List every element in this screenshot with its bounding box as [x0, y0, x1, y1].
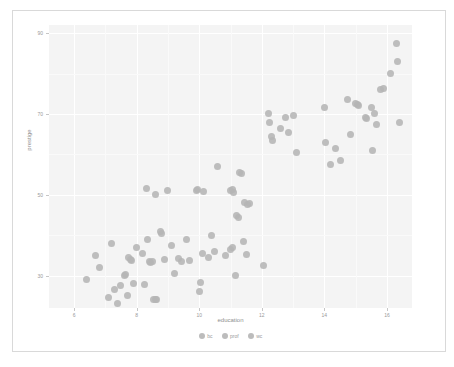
data-point: [141, 281, 148, 288]
data-point: [327, 161, 334, 168]
data-point: [332, 145, 339, 152]
data-point: [161, 256, 168, 263]
y-axis-tick: [46, 276, 49, 277]
x-axis-tick: [74, 308, 75, 311]
data-point: [337, 157, 344, 164]
data-point: [277, 125, 284, 132]
x-axis-tick: [199, 308, 200, 311]
data-point: [387, 70, 394, 77]
legend-label: wc: [256, 333, 262, 339]
data-point: [186, 257, 193, 264]
data-point: [238, 170, 245, 177]
y-axis-label: prestige: [26, 110, 32, 170]
data-point: [143, 185, 150, 192]
data-point: [344, 96, 351, 103]
data-point: [128, 257, 135, 264]
data-point: [347, 131, 354, 138]
data-point: [322, 139, 329, 146]
x-axis-tick: [324, 308, 325, 311]
data-point: [152, 191, 159, 198]
data-point: [230, 189, 237, 196]
data-point: [205, 254, 212, 261]
data-point: [196, 288, 203, 295]
x-axis-tick: [262, 308, 263, 311]
data-point: [243, 251, 250, 258]
legend-item: bc: [199, 333, 213, 339]
legend-label: bc: [207, 333, 212, 339]
data-point: [211, 248, 218, 255]
data-point: [229, 244, 236, 251]
data-point: [373, 121, 380, 128]
data-point: [240, 238, 247, 245]
data-point: [222, 252, 229, 259]
legend-key-icon: [248, 333, 254, 339]
data-point: [158, 230, 165, 237]
y-axis-tick: [46, 195, 49, 196]
y-axis-tick: [46, 33, 49, 34]
data-point: [269, 137, 276, 144]
x-axis-tick: [137, 308, 138, 311]
data-point: [133, 244, 140, 251]
y-axis-tick-label: 50: [25, 192, 43, 198]
x-axis-label: education: [49, 317, 412, 323]
data-point: [153, 296, 160, 303]
data-point: [149, 258, 156, 265]
data-point: [293, 149, 300, 156]
data-point: [114, 300, 121, 307]
data-point: [232, 272, 239, 279]
data-point: [369, 147, 376, 154]
data-point: [380, 85, 387, 92]
x-axis-tick: [387, 308, 388, 311]
plot-panel: [49, 25, 412, 308]
data-point: [285, 129, 292, 136]
data-point: [265, 110, 272, 117]
y-axis-tick-label: 90: [25, 30, 43, 36]
y-axis-tick: [46, 114, 49, 115]
data-point: [130, 280, 137, 287]
data-point: [144, 236, 151, 243]
legend-item: wc: [248, 333, 263, 339]
data-point: [124, 292, 131, 299]
data-point: [117, 282, 124, 289]
data-point: [214, 163, 221, 170]
data-point: [394, 58, 401, 65]
data-point: [246, 200, 253, 207]
data-point: [260, 262, 267, 269]
data-point: [321, 104, 328, 111]
data-point: [363, 115, 370, 122]
data-point: [83, 276, 90, 283]
data-point: [200, 188, 207, 195]
legend-item: prof: [222, 333, 239, 339]
data-point: [92, 252, 99, 259]
data-point: [355, 102, 362, 109]
legend-key-icon: [199, 333, 205, 339]
data-point: [178, 258, 185, 265]
data-point: [290, 112, 297, 119]
legend-label: prof: [230, 333, 239, 339]
data-point: [96, 264, 103, 271]
data-point: [371, 110, 378, 117]
data-point: [266, 119, 273, 126]
screenshot-frame: 681012141630507090 education prestige bc…: [12, 10, 446, 352]
data-point: [105, 294, 112, 301]
data-point: [108, 240, 115, 247]
data-point: [282, 114, 289, 121]
data-point: [171, 270, 178, 277]
data-point: [168, 242, 175, 249]
data-point: [122, 271, 129, 278]
scatter-points-layer: [49, 25, 412, 308]
data-point: [139, 250, 146, 257]
data-point: [208, 232, 215, 239]
data-point: [235, 214, 242, 221]
legend-key-icon: [222, 333, 228, 339]
data-point: [393, 40, 400, 47]
data-point: [396, 119, 403, 126]
y-axis-tick-label: 30: [25, 273, 43, 279]
data-point: [197, 279, 204, 286]
chart-figure: 681012141630507090 education prestige bc…: [13, 11, 447, 353]
chart-legend: bcprofwc: [49, 333, 412, 339]
data-point: [183, 236, 190, 243]
data-point: [164, 187, 171, 194]
